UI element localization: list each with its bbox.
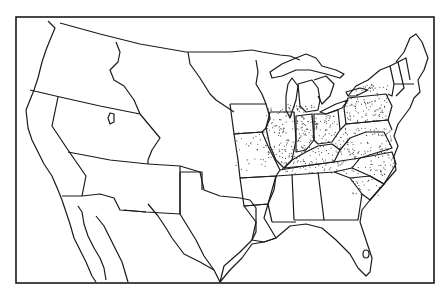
gulf-of-california-coast	[96, 216, 128, 282]
arkansas-border	[240, 176, 276, 206]
minnesota-north-border	[252, 50, 300, 60]
minnesota-wisconsin-line	[256, 60, 266, 104]
california-east-border	[52, 97, 86, 196]
northern-border	[60, 23, 252, 52]
new-york-border	[348, 66, 394, 96]
south-carolina-border	[350, 176, 384, 200]
population-stipple	[236, 84, 394, 196]
us-outline-map	[0, 0, 448, 296]
virginia-maryland-lines	[340, 120, 392, 158]
lower-michigan	[298, 80, 320, 112]
mississippi-alabama-lines	[268, 172, 324, 222]
texas-border	[180, 172, 256, 282]
map-frame	[16, 17, 434, 283]
lake-superior	[270, 54, 344, 78]
lake-okeechobee	[363, 250, 369, 258]
map-figure	[0, 0, 448, 296]
rio-grande	[148, 204, 214, 270]
illinois-border	[266, 112, 296, 168]
indiana-border	[296, 114, 314, 152]
louisiana-border	[244, 204, 276, 242]
utah-south-border	[68, 152, 148, 164]
georgia-border	[324, 172, 362, 220]
new-mexico-territory	[124, 164, 180, 214]
iowa-border	[230, 104, 270, 134]
arizona-south-line	[62, 194, 146, 212]
great-salt-lake	[108, 113, 114, 124]
pacific-coastline	[26, 21, 96, 282]
lake-huron	[314, 76, 334, 104]
new-england-lines	[390, 58, 414, 96]
gulf-coast	[220, 200, 372, 282]
indian-territory-line	[180, 172, 202, 190]
oregon-territory-line	[110, 42, 140, 114]
atlantic-coast	[370, 34, 428, 200]
ohio-border	[314, 110, 340, 144]
missouri-river-line	[188, 52, 234, 112]
utah-territory-border	[140, 114, 160, 164]
baja-peninsula	[78, 206, 106, 280]
california-oregon-line	[30, 90, 140, 114]
